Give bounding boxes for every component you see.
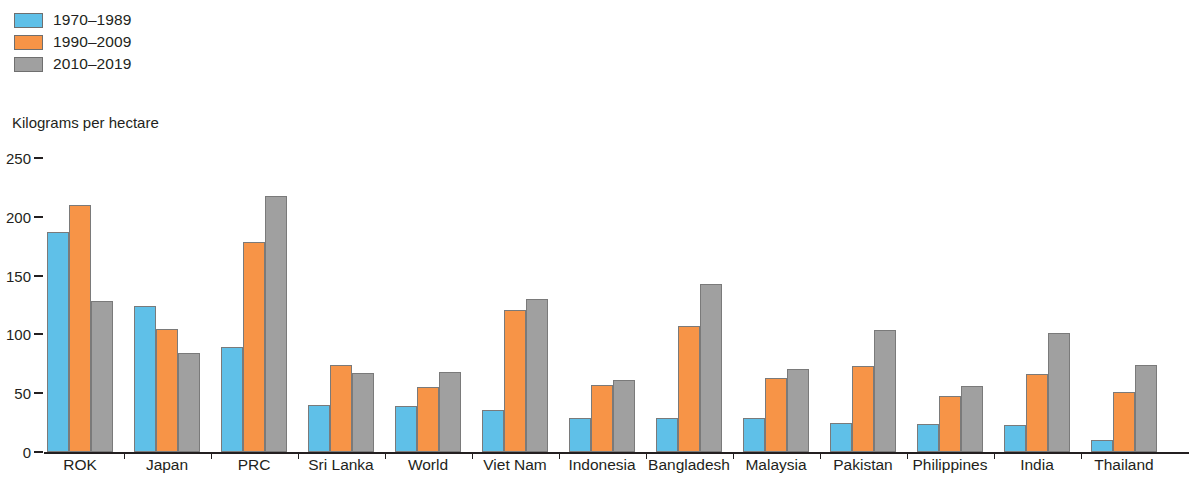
bar-group <box>569 158 635 452</box>
bar[interactable] <box>221 347 243 452</box>
bar[interactable] <box>1026 374 1048 452</box>
bar[interactable] <box>743 418 765 452</box>
bar[interactable] <box>395 406 417 452</box>
bar[interactable] <box>482 410 504 452</box>
y-axis-tick-label: 0 <box>0 444 31 461</box>
x-axis-category-label: Japan <box>146 456 188 474</box>
x-axis-category-label: Indonesia <box>568 456 635 474</box>
x-axis-category-label: Malaysia <box>745 456 806 474</box>
bar[interactable] <box>439 372 461 452</box>
y-axis-tick-label: 150 <box>0 267 31 284</box>
bar[interactable] <box>569 418 591 452</box>
x-axis-category-label: Bangladesh <box>648 456 730 474</box>
x-axis-tick-mark <box>733 452 734 459</box>
bar[interactable] <box>678 326 700 452</box>
bar[interactable] <box>352 373 374 452</box>
bar-group <box>1004 158 1070 452</box>
x-axis-baseline <box>44 452 1189 454</box>
x-axis-category-label: ROK <box>63 456 97 474</box>
bar[interactable] <box>917 424 939 452</box>
bar[interactable] <box>134 306 156 452</box>
x-axis-tick-mark <box>994 452 995 459</box>
x-axis-category-label: Pakistan <box>833 456 892 474</box>
x-axis-tick-mark <box>124 452 125 459</box>
bar[interactable] <box>308 405 330 452</box>
bar[interactable] <box>939 396 961 452</box>
bar[interactable] <box>830 423 852 452</box>
x-axis-tick-mark <box>211 452 212 459</box>
bar[interactable] <box>47 232 69 452</box>
bar[interactable] <box>1135 365 1157 452</box>
x-axis-category-label: India <box>1020 456 1054 474</box>
bar[interactable] <box>591 385 613 452</box>
bar-group <box>47 158 113 452</box>
bar[interactable] <box>961 386 983 452</box>
y-axis-tick-mark <box>34 157 43 159</box>
x-axis-category-label: Thailand <box>1094 456 1153 474</box>
bar[interactable] <box>852 366 874 452</box>
bar[interactable] <box>874 330 896 452</box>
x-axis-tick-mark <box>646 452 647 459</box>
bar-group <box>917 158 983 452</box>
x-axis-tick-mark <box>298 452 299 459</box>
bar[interactable] <box>765 378 787 452</box>
bar[interactable] <box>417 387 439 452</box>
x-axis-category-label: Philippines <box>913 456 988 474</box>
x-axis-category-label: Sri Lanka <box>308 456 373 474</box>
bar[interactable] <box>656 418 678 452</box>
bar[interactable] <box>1113 392 1135 452</box>
bar-chart: 050100150200250 ROKJapanPRCSri LankaWorl… <box>0 0 1194 479</box>
x-axis-category-label: PRC <box>238 456 271 474</box>
y-axis-tick-mark <box>34 275 43 277</box>
y-axis-tick-mark <box>34 392 43 394</box>
bar[interactable] <box>1048 333 1070 452</box>
x-axis-tick-mark <box>559 452 560 459</box>
bar-group <box>395 158 461 452</box>
y-axis-tick-label: 100 <box>0 326 31 343</box>
x-axis-tick-mark <box>907 452 908 459</box>
bar[interactable] <box>330 365 352 452</box>
x-axis-tick-mark <box>1081 452 1082 459</box>
bar-group <box>1091 158 1157 452</box>
bar[interactable] <box>178 353 200 452</box>
bar[interactable] <box>156 329 178 452</box>
bar[interactable] <box>265 196 287 452</box>
y-axis-tick-label: 200 <box>0 208 31 225</box>
bar-group <box>656 158 722 452</box>
y-axis-tick-mark <box>34 333 43 335</box>
bar[interactable] <box>91 301 113 452</box>
y-axis-tick-label: 50 <box>0 385 31 402</box>
x-axis-category-label: World <box>408 456 448 474</box>
plot-area <box>47 158 1186 452</box>
bar-group <box>482 158 548 452</box>
bar[interactable] <box>787 369 809 452</box>
bar[interactable] <box>69 205 91 452</box>
bar[interactable] <box>700 284 722 452</box>
x-axis-tick-mark <box>385 452 386 459</box>
bar-group <box>308 158 374 452</box>
bar[interactable] <box>613 380 635 452</box>
bar-group <box>221 158 287 452</box>
x-axis-tick-mark <box>820 452 821 459</box>
y-axis-tick-mark <box>34 216 43 218</box>
bar-group <box>743 158 809 452</box>
y-axis-tick-mark <box>34 451 43 453</box>
bar[interactable] <box>526 299 548 452</box>
bar-group <box>134 158 200 452</box>
bar[interactable] <box>1004 425 1026 452</box>
bar-group <box>830 158 896 452</box>
bar[interactable] <box>243 242 265 453</box>
bar[interactable] <box>1091 440 1113 452</box>
y-axis-tick-label: 250 <box>0 150 31 167</box>
bar[interactable] <box>504 310 526 452</box>
x-axis-tick-mark <box>472 452 473 459</box>
x-axis-category-label: Viet Nam <box>483 456 546 474</box>
